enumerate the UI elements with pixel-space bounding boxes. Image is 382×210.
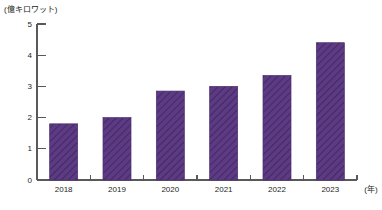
x-axis-tick-label: 2019: [108, 185, 126, 194]
bar-2020: [156, 91, 184, 180]
y-axis-tick-label: 1: [28, 144, 33, 153]
x-axis-name-label: (年): [364, 184, 378, 194]
y-axis-tick-label: 3: [28, 82, 33, 91]
y-axis-tick-label: 2: [28, 113, 33, 122]
x-axis-tick-label: 2023: [321, 185, 339, 194]
y-axis-tick-label: 5: [28, 20, 33, 29]
y-axis-tick-label: 4: [28, 51, 33, 60]
x-axis-tick-label: 2021: [215, 185, 233, 194]
y-axis-tick-label: 0: [28, 176, 33, 185]
x-axis-tick-label: 2018: [55, 185, 73, 194]
x-axis-tick-label: 2020: [161, 185, 179, 194]
bar-2018: [50, 124, 78, 180]
bar-chart: (億キロワット) 012345201820192020202120222023(…: [0, 0, 382, 210]
bar-2019: [103, 118, 131, 180]
bar-2021: [210, 86, 238, 180]
chart-plot-area: 012345201820192020202120222023(年): [0, 0, 382, 210]
x-axis-tick-label: 2022: [268, 185, 286, 194]
bar-2022: [263, 75, 291, 180]
bar-2023: [316, 43, 344, 180]
